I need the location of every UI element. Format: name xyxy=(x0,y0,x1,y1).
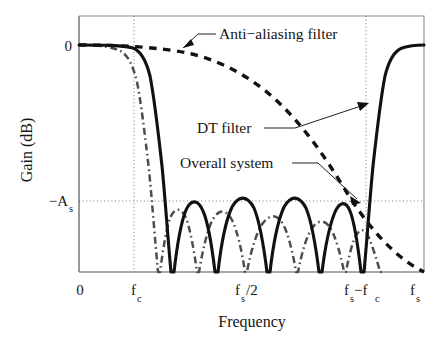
xtick-label-fs: f s xyxy=(410,282,420,304)
xtick-label-fs-over-2-sub: s xyxy=(241,293,245,304)
xtick-label-fs-over-2-main: f xyxy=(235,282,240,298)
xtick-label-fs-over-2: f s /2 xyxy=(235,282,258,304)
x-axis-label: Frequency xyxy=(218,313,286,331)
ytick-label-minus-As-sub: s xyxy=(69,203,73,214)
xtick-label-fs-minus-fc-suffix: −f xyxy=(354,282,367,298)
ytick-label-0: 0 xyxy=(65,38,73,54)
plot-background xyxy=(79,16,424,272)
annotation-anti-aliasing-filter: Anti−aliasing filter xyxy=(219,25,338,42)
annotation-overall-system: Overall system xyxy=(180,154,273,171)
y-axis-label: Gain (dB) xyxy=(18,118,36,182)
ytick-label-minus-As-main: −A xyxy=(49,193,68,209)
xtick-label-fs-minus-fc-sub2: c xyxy=(375,293,380,304)
annotation-dt-filter: DT filter xyxy=(197,119,252,136)
xtick-label-fs-over-2-suffix: /2 xyxy=(246,282,258,298)
xtick-label-fs-minus-fc-main: f xyxy=(344,282,349,298)
xtick-label-0: 0 xyxy=(76,282,84,298)
ytick-label-minus-As: −A s xyxy=(49,193,73,214)
xtick-label-fs-sub: s xyxy=(416,293,420,304)
xtick-label-fs-minus-fc: f s −f c xyxy=(344,282,380,304)
xtick-label-fc: f c xyxy=(131,282,142,304)
xtick-label-fs-main: f xyxy=(410,282,415,298)
frequency-response-figure: Anti−aliasing filter DT filter Overall s… xyxy=(0,0,446,344)
xtick-label-fc-main: f xyxy=(131,282,136,298)
plot-svg: Anti−aliasing filter DT filter Overall s… xyxy=(0,0,446,344)
xtick-label-fc-sub: c xyxy=(137,293,142,304)
